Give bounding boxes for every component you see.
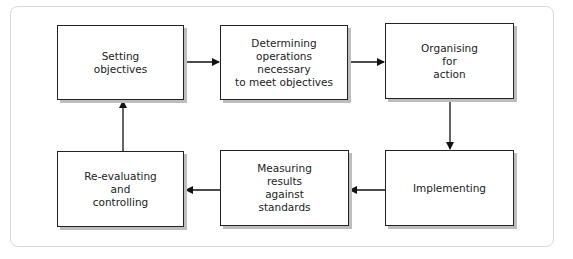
- box-implementing: Implementing: [385, 150, 514, 226]
- box-determining-operations: Determining operations necessary to meet…: [220, 25, 348, 100]
- box-label: Setting objectives: [94, 50, 147, 76]
- box-measuring-results: Measuring results against standards: [220, 150, 349, 226]
- box-label: Organising for action: [421, 42, 478, 81]
- box-organising-for-action: Organising for action: [385, 23, 514, 99]
- box-label: Re-evaluating and controlling: [84, 170, 157, 209]
- box-label: Measuring results against standards: [257, 162, 312, 214]
- box-setting-objectives: Setting objectives: [57, 25, 184, 100]
- box-label: Implementing: [413, 182, 486, 195]
- box-label: Determining operations necessary to meet…: [235, 37, 333, 89]
- box-re-evaluating: Re-evaluating and controlling: [57, 151, 184, 227]
